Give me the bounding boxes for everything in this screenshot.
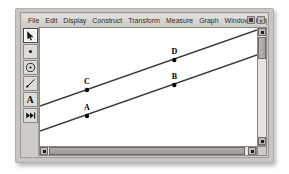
- arrow-icon: [25, 30, 36, 41]
- menu-item-graph[interactable]: Graph: [196, 14, 221, 27]
- point-label-C[interactable]: C: [84, 78, 90, 86]
- menu-item-transform[interactable]: Transform: [125, 14, 163, 27]
- canvas-area: CDAB: [39, 27, 267, 156]
- point-D[interactable]: [172, 58, 176, 63]
- vertical-scrollbar[interactable]: [257, 27, 267, 146]
- sketch-canvas[interactable]: CDAB: [39, 27, 257, 146]
- compass-circle-tool[interactable]: [23, 60, 38, 75]
- application-window: File Edit Display Construct Transform Me…: [15, 8, 274, 163]
- scroll-right-button[interactable]: [248, 147, 256, 155]
- point-label-D[interactable]: D: [171, 48, 177, 56]
- custom-tool[interactable]: [23, 108, 38, 123]
- point-tool[interactable]: [23, 44, 38, 59]
- point-A[interactable]: [85, 114, 89, 119]
- menu-item-file[interactable]: File: [25, 14, 42, 27]
- close-button[interactable]: ×: [257, 16, 265, 24]
- fast-forward-icon: [25, 110, 36, 121]
- horizontal-scroll-thumb[interactable]: [49, 147, 245, 155]
- scroll-right-icon: [251, 150, 254, 153]
- scroll-left-button[interactable]: [40, 147, 48, 155]
- upper-line[interactable]: [40, 30, 257, 106]
- point-label-A[interactable]: A: [84, 104, 90, 112]
- circle-icon: [25, 62, 36, 73]
- geometry-drawing: [40, 28, 257, 146]
- screenshot-root: File Edit Display Construct Transform Me…: [0, 0, 289, 174]
- restore-icon: [249, 18, 253, 22]
- point-label-B[interactable]: B: [172, 73, 177, 81]
- point-C[interactable]: [85, 88, 89, 93]
- lower-line[interactable]: [40, 55, 257, 131]
- straightedge-tool[interactable]: [23, 76, 38, 91]
- scroll-up-icon: [261, 31, 264, 34]
- horizontal-scrollbar[interactable]: [39, 146, 257, 156]
- selection-arrow-tool[interactable]: [23, 28, 38, 43]
- close-icon: ×: [259, 18, 263, 22]
- menu-item-construct[interactable]: Construct: [89, 14, 125, 27]
- scroll-up-button[interactable]: [258, 28, 266, 36]
- window-inner-frame: File Edit Display Construct Transform Me…: [20, 12, 269, 158]
- scroll-left-icon: [43, 150, 46, 153]
- scroll-down-icon: [261, 140, 264, 143]
- menu-bar: File Edit Display Construct Transform Me…: [22, 14, 267, 27]
- window-control-group: ×: [247, 16, 265, 24]
- text-tool[interactable]: A: [23, 92, 38, 107]
- menu-item-edit[interactable]: Edit: [42, 14, 60, 27]
- scrollbar-corner: [257, 146, 267, 156]
- menu-item-display[interactable]: Display: [60, 14, 89, 27]
- line-icon: [25, 78, 36, 89]
- point-icon: [25, 46, 36, 57]
- tool-palette: A: [22, 27, 39, 156]
- text-a-icon: A: [26, 95, 33, 105]
- scroll-down-button[interactable]: [258, 137, 266, 145]
- menu-item-measure[interactable]: Measure: [163, 14, 196, 27]
- restore-button[interactable]: [247, 16, 255, 24]
- vertical-scroll-thumb[interactable]: [258, 37, 266, 59]
- point-B[interactable]: [172, 83, 176, 88]
- line-group: [40, 30, 257, 131]
